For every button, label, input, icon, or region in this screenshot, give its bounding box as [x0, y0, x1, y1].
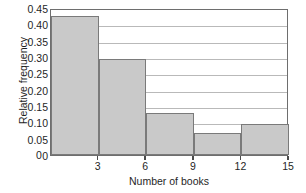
y-axis-tick-label: 0.45	[14, 4, 48, 14]
y-axis-tick-label: 0.25	[14, 69, 48, 79]
histogram-bar	[99, 59, 147, 155]
x-axis-tick-labels: 3691215	[50, 160, 288, 174]
y-axis-tick-labels: 0.450.400.350.300.250.200.150.100.050	[14, 9, 48, 156]
y-axis-tick-label: 0.20	[14, 86, 48, 96]
plot-area	[50, 9, 288, 156]
x-axis-tick-label: 12	[225, 160, 255, 172]
relative-frequency-histogram: Relative frequency 0.450.400.350.300.250…	[0, 0, 306, 193]
y-axis-tick-label: 0.05	[14, 135, 48, 145]
y-axis-tick-label: 0	[14, 151, 48, 161]
bars-layer	[51, 10, 287, 155]
y-axis-tick-label: 0.40	[14, 20, 48, 30]
y-axis-tick-label: 0.10	[14, 118, 48, 128]
histogram-bar	[51, 16, 99, 155]
y-axis-tick-label: 0.15	[14, 102, 48, 112]
x-axis-tick-label: 6	[130, 160, 160, 172]
histogram-bar	[241, 124, 289, 155]
x-axis-title: Number of books	[50, 175, 288, 187]
y-axis-tick-label: 0.35	[14, 37, 48, 47]
x-axis-tick-label: 3	[83, 160, 113, 172]
x-axis-tick-label: 9	[178, 160, 208, 172]
histogram-bar	[194, 133, 242, 155]
x-axis-origin-label: 0	[36, 149, 42, 161]
y-axis-tick-label: 0.30	[14, 53, 48, 63]
x-axis-tick-label: 15	[273, 160, 303, 172]
histogram-bar	[146, 113, 194, 155]
